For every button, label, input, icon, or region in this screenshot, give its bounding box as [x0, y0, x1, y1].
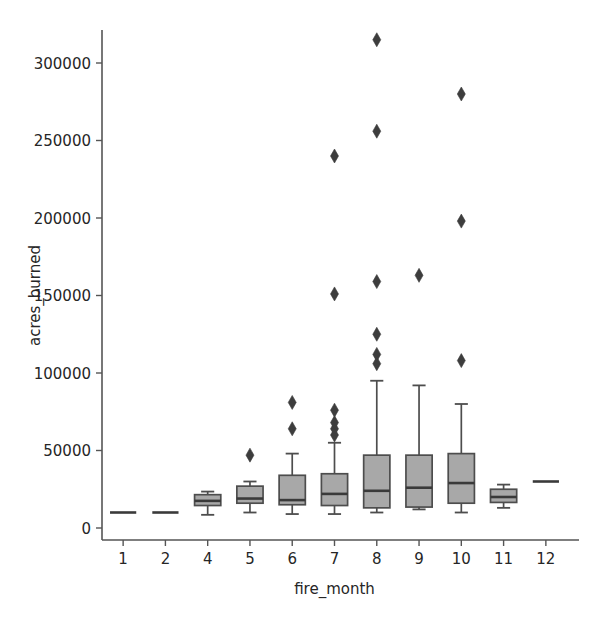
box-body	[321, 474, 347, 506]
x-tick-label: 7	[330, 550, 340, 568]
x-axis-title: fire_month	[294, 580, 375, 599]
box-plot-6[interactable]	[279, 454, 305, 514]
y-axis-title: acres_burned	[26, 245, 45, 346]
box-plot-10[interactable]	[448, 404, 474, 513]
y-tick-label: 250000	[34, 132, 91, 150]
y-tick-label: 300000	[34, 55, 91, 73]
outlier-marker	[415, 268, 423, 282]
box-body	[364, 455, 390, 508]
box-plot-7[interactable]	[321, 443, 347, 514]
x-tick-label: 11	[494, 550, 513, 568]
x-tick-label: 9	[414, 550, 424, 568]
outlier-marker	[288, 395, 296, 409]
boxplot-svg: 050000100000150000200000250000300000 124…	[0, 0, 603, 622]
boxplot-figure: 050000100000150000200000250000300000 124…	[0, 0, 603, 622]
x-axis-ticks: 12456789101112	[118, 540, 555, 568]
box-plot-5[interactable]	[237, 482, 263, 513]
outlier-marker	[373, 275, 381, 289]
y-tick-label: 0	[81, 520, 91, 538]
y-tick-label: 200000	[34, 210, 91, 228]
outlier-marker	[288, 422, 296, 436]
box-plot-8[interactable]	[364, 381, 390, 513]
outlier-marker	[373, 327, 381, 341]
outlier-marker	[373, 33, 381, 47]
x-tick-label: 4	[203, 550, 213, 568]
outlier-marker	[457, 214, 465, 228]
boxes-layer	[110, 381, 559, 515]
outlier-marker	[457, 354, 465, 368]
outlier-marker	[373, 347, 381, 361]
x-tick-label: 8	[372, 550, 382, 568]
x-tick-label: 10	[452, 550, 471, 568]
outlier-marker	[331, 403, 339, 417]
y-tick-label: 100000	[34, 365, 91, 383]
x-tick-label: 2	[161, 550, 171, 568]
box-plot-11[interactable]	[490, 485, 516, 508]
outlier-marker	[457, 87, 465, 101]
box-body	[237, 486, 263, 503]
outlier-marker	[373, 124, 381, 138]
x-tick-label: 6	[287, 550, 297, 568]
box-plot-9[interactable]	[406, 385, 432, 509]
fliers-layer	[246, 33, 465, 462]
outlier-marker	[331, 149, 339, 163]
outlier-marker	[331, 287, 339, 301]
x-tick-label: 12	[536, 550, 555, 568]
box-body	[406, 455, 432, 507]
x-tick-label: 5	[245, 550, 255, 568]
y-tick-label: 50000	[43, 442, 91, 460]
axes-spines	[102, 30, 579, 540]
box-body	[448, 454, 474, 504]
outlier-marker	[246, 448, 254, 462]
box-plot-4[interactable]	[195, 492, 221, 515]
x-tick-label: 1	[118, 550, 128, 568]
